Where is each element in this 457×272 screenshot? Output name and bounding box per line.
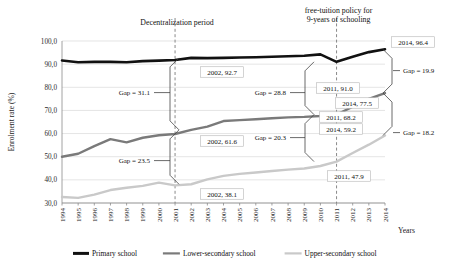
annotation-free-tuition-line1: free-tuition policy for [305, 6, 373, 15]
label-lower-2014-text: 2014, 77.5 [342, 100, 372, 108]
bracket-2011-primary-lower [305, 62, 314, 115]
bracket-2002-primary-lower [170, 58, 179, 130]
y-tick-60: 60,0 [44, 130, 57, 138]
gap-label-gap-2014-lower-upper: Gap = 18.2 [403, 129, 435, 137]
y-axis-title: Enrolment rate (%) [7, 92, 16, 151]
legend-label-0: Primary school [92, 249, 137, 258]
label-upper-2002-text: 2002, 38.1 [207, 191, 237, 199]
label-lower-2002-text: 2002, 61.6 [207, 138, 237, 146]
x-tick-2005: 2005 [236, 208, 244, 223]
x-tick-2011: 2011 [333, 208, 341, 222]
x-tick-1994: 1994 [59, 208, 67, 223]
y-tick-90: 90,0 [44, 61, 57, 69]
x-tick-2014: 2014 [382, 208, 390, 223]
label-lower-2011: 2011, 68.2 [320, 112, 363, 123]
y-tick-30: 30,0 [44, 200, 57, 208]
x-tick-2004: 2004 [220, 208, 228, 223]
y-axis-tick-labels: 30,040,050,060,070,080,090,0100,0 [41, 38, 58, 208]
label-primary-2014: 2014, 96.4 [392, 37, 435, 48]
enrolment-rate-line-chart: 30,040,050,060,070,080,090,0100,0 199419… [0, 0, 457, 272]
x-axis-tick-labels: 1994199519961997199819992000200120022003… [59, 203, 390, 222]
label-primary-2011-text: 2011, 91.0 [323, 85, 353, 93]
x-axis-title: Years [398, 226, 415, 235]
legend: Primary schoolLower-secondary schoolUppe… [73, 249, 376, 258]
x-tick-2009: 2009 [301, 208, 309, 223]
legend-label-1: Lower-secondary school [183, 249, 256, 258]
bracket-2014-lower-upper [383, 93, 392, 135]
y-tick-50: 50,0 [44, 153, 57, 161]
legend-item-2: Upper-secondary school [285, 249, 377, 258]
x-tick-1999: 1999 [139, 208, 147, 223]
label-lower-2014: 2014, 77.5 [336, 98, 379, 109]
gap-label-gap-2002-lower-upper: Gap = 23.5 [119, 157, 151, 165]
label-primary-2011: 2011, 91.0 [317, 83, 360, 94]
label-primary-2002: 2002, 92.7 [201, 67, 244, 78]
x-tick-2001: 2001 [172, 208, 180, 223]
label-upper-2011-text: 2011, 47.9 [334, 173, 364, 181]
x-tick-2008: 2008 [285, 208, 293, 223]
label-primary-2002-text: 2002, 92.7 [207, 69, 237, 77]
y-tick-70: 70,0 [44, 107, 57, 115]
x-tick-1998: 1998 [123, 208, 131, 223]
gap-label-gap-2014-primary-lower: Gap = 19.9 [403, 67, 435, 75]
x-tick-2003: 2003 [204, 208, 212, 223]
x-tick-1996: 1996 [91, 208, 99, 223]
gap-label-gap-2002-primary-lower: Gap = 31.1 [119, 89, 151, 97]
annotation-decentralization-period: Decentralization period [140, 18, 213, 27]
x-tick-1995: 1995 [75, 208, 83, 223]
chart-figure: 30,040,050,060,070,080,090,0100,0 199419… [0, 0, 457, 272]
legend-item-0: Primary school [73, 249, 137, 258]
gap-labels: Gap = 31.1Gap = 23.5Gap = 28.8Gap = 20.3… [119, 67, 435, 165]
y-tick-40: 40,0 [44, 176, 57, 184]
bracket-2011-lower-upper [305, 115, 314, 162]
label-upper-2014-text: 2014, 59.2 [326, 126, 356, 134]
x-tick-1997: 1997 [107, 208, 115, 223]
x-tick-2012: 2012 [349, 208, 357, 223]
gap-label-gap-2011-primary-lower: Gap = 28.8 [255, 89, 287, 97]
gap-brackets [154, 49, 400, 184]
gap-label-gap-2011-lower-upper: Gap = 20.3 [255, 134, 287, 142]
label-upper-2002: 2002, 38.1 [201, 189, 244, 200]
x-tick-2006: 2006 [252, 208, 260, 223]
label-lower-2002: 2002, 61.6 [201, 136, 244, 147]
event-annotation-labels: Decentralization periodfree-tuition poli… [140, 6, 372, 27]
label-primary-2014-text: 2014, 96.4 [398, 39, 428, 47]
x-tick-2002: 2002 [188, 208, 196, 223]
legend-item-1: Lower-secondary school [163, 249, 256, 258]
label-upper-2014: 2014, 59.2 [320, 124, 363, 135]
x-tick-2010: 2010 [317, 208, 325, 223]
y-tick-80: 80,0 [44, 84, 57, 92]
y-tick-100: 100,0 [41, 38, 58, 46]
legend-label-2: Upper-secondary school [305, 249, 377, 258]
label-lower-2011-text: 2011, 68.2 [326, 114, 356, 122]
x-tick-2007: 2007 [269, 208, 277, 223]
annotation-free-tuition-line2: 9-years of schooling [307, 15, 371, 24]
x-tick-2000: 2000 [156, 208, 164, 223]
label-upper-2011: 2011, 47.9 [328, 171, 371, 182]
x-tick-2013: 2013 [365, 208, 373, 223]
bracket-2014-primary-lower [383, 49, 392, 93]
